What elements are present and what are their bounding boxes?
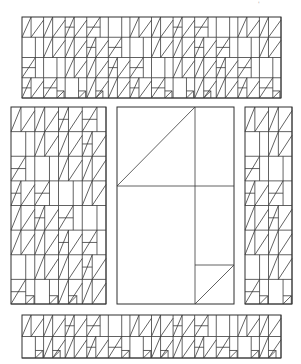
center-panel [117, 107, 234, 304]
panels-layer [11, 17, 292, 358]
left-panel [11, 107, 106, 304]
right-panel [245, 107, 292, 304]
center-panel-frame [117, 107, 234, 304]
bottom-strip [22, 315, 281, 358]
top-strip [22, 17, 281, 98]
quilt-diagram [0, 0, 301, 364]
